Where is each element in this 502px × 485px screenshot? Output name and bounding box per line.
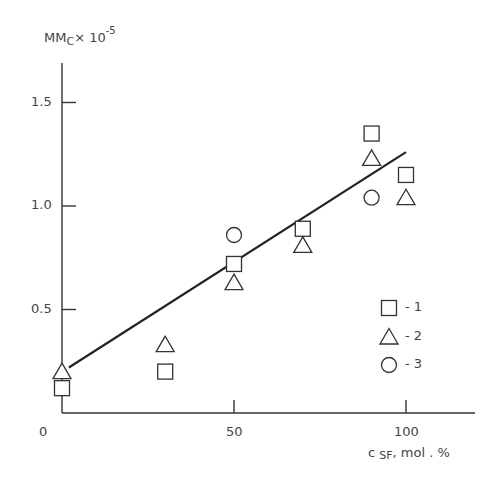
x-tick-label: 0 <box>39 424 47 439</box>
data-point-circle-marker <box>227 227 242 242</box>
x-label-prefix: c <box>368 445 375 460</box>
data-point-square-marker <box>295 221 310 236</box>
x-tick-label: 50 <box>226 424 243 439</box>
x-label-suffix: , mol . % <box>393 445 450 460</box>
y-label-main: MM <box>44 30 66 45</box>
data-point-square-marker <box>364 126 379 141</box>
data-point-triangle-marker <box>225 274 243 290</box>
legend-label: - 1 <box>405 299 422 314</box>
legend-triangle-marker <box>380 329 398 345</box>
data-point-square-marker <box>55 381 70 396</box>
data-point-triangle-marker <box>294 237 312 253</box>
x-label-sub: SF <box>379 449 392 462</box>
y-tick-label: 1.0 <box>31 197 52 212</box>
y-axis-label: MMC× 10-5 <box>44 30 116 45</box>
legend-label: - 3 <box>405 356 422 371</box>
y-label-mult: × 10 <box>74 30 106 45</box>
legend-circle-marker <box>382 358 397 373</box>
legend-square-marker <box>382 301 397 316</box>
y-label-sub: C <box>66 35 74 48</box>
y-label-exp: -5 <box>106 25 116 36</box>
data-point-triangle-marker <box>156 336 174 352</box>
x-tick-label: 100 <box>394 424 419 439</box>
data-point-triangle-marker <box>363 150 381 166</box>
data-point-square-marker <box>227 256 242 271</box>
data-point-square-marker <box>158 364 173 379</box>
y-tick-label: 0.5 <box>31 301 52 316</box>
data-point-triangle-marker <box>397 189 415 205</box>
data-point-square-marker <box>399 167 414 182</box>
legend-label: - 2 <box>405 328 422 343</box>
y-tick-label: 1.5 <box>31 94 52 109</box>
data-point-circle-marker <box>364 190 379 205</box>
x-axis-label: c SF, mol . % <box>368 445 450 460</box>
scatter-plot <box>0 0 502 485</box>
data-point-triangle-marker <box>53 363 71 379</box>
